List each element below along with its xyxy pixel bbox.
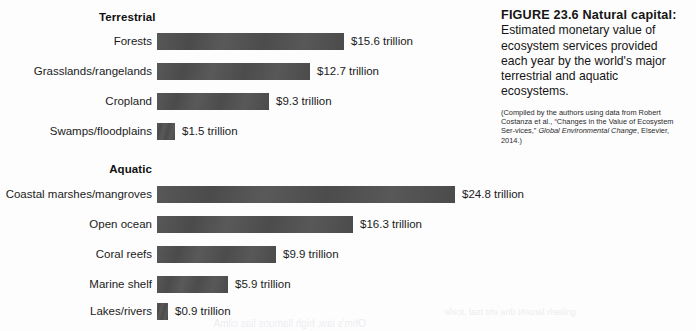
table-row: Forests $15.6 trillion (0, 33, 480, 50)
bar-track (157, 246, 276, 263)
group-header-terrestrial: Terrestrial (0, 11, 152, 23)
bar-value: $9.3 trillion (276, 93, 332, 110)
caption-source-credit: (Compiled by the authors using data from… (501, 108, 687, 145)
table-row: Grasslands/rangelands $12.7 trillion (0, 63, 480, 80)
bar-track (157, 93, 269, 110)
table-row: Marine shelf $5.9 trillion (0, 276, 480, 293)
bar-value: $12.7 trillion (317, 63, 379, 80)
caption-body: FIGURE 23.6 Natural capital: Estimated m… (501, 8, 687, 100)
bar-label: Coral reefs (0, 246, 152, 263)
bar-track (157, 276, 228, 293)
source-journal-title: Global Environmental Change (538, 126, 637, 135)
table-row: Coastal marshes/mangroves $24.8 trillion (0, 186, 480, 203)
bar (157, 276, 228, 293)
table-row: Swamps/floodplains $1.5 trillion (0, 123, 480, 140)
bar-track (157, 186, 455, 203)
bar-chart: Terrestrial Forests $15.6 trillion Grass… (0, 0, 480, 331)
bar-value: $5.9 trillion (235, 276, 291, 293)
bar (157, 186, 455, 203)
figure-page: Terrestrial Forests $15.6 trillion Grass… (0, 0, 696, 331)
bar-track (157, 63, 310, 80)
group-header-aquatic: Aquatic (0, 163, 152, 175)
bar-label: Grasslands/rangelands (0, 63, 152, 80)
bar-value: $1.5 trillion (182, 123, 238, 140)
bar (157, 216, 353, 233)
bar-track (157, 303, 168, 320)
bar-label: Swamps/floodplains (0, 123, 152, 140)
figure-caption: FIGURE 23.6 Natural capital: Estimated m… (501, 8, 687, 145)
bar-track (157, 216, 353, 233)
bar-label: Lakes/rivers (0, 303, 152, 320)
bar-label: Coastal marshes/mangroves (0, 186, 152, 203)
bar-label: Marine shelf (0, 276, 152, 293)
bar-label: Open ocean (0, 216, 152, 233)
bar (157, 303, 168, 320)
bar-value: $16.3 trillion (360, 216, 422, 233)
bar-value: $24.8 trillion (462, 186, 524, 203)
bar-value: $9.9 trillion (283, 246, 339, 263)
bar (157, 93, 269, 110)
bar-label: Cropland (0, 93, 152, 110)
bar (157, 63, 310, 80)
table-row: Lakes/rivers $0.9 trillion (0, 303, 480, 320)
bar-value: $15.6 trillion (351, 33, 413, 50)
caption-text: Estimated monetary value of ecosystem se… (501, 23, 666, 98)
bar-value: $0.9 trillion (175, 303, 231, 320)
figure-number-label: FIGURE 23.6 Natural capital: (501, 8, 677, 22)
bar-track (157, 123, 175, 140)
bar-track (157, 33, 344, 50)
table-row: Coral reefs $9.9 trillion (0, 246, 480, 263)
table-row: Cropland $9.3 trillion (0, 93, 480, 110)
bar (157, 123, 175, 140)
table-row: Open ocean $16.3 trillion (0, 216, 480, 233)
bar-label: Forests (0, 33, 152, 50)
bar (157, 246, 276, 263)
bar (157, 33, 344, 50)
